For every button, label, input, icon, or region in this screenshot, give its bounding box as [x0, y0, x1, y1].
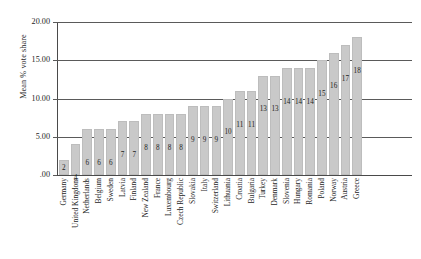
bar-slot: 7 — [117, 22, 129, 175]
bar[interactable] — [129, 121, 139, 175]
x-label-slot: Germany — [58, 178, 70, 258]
bar-value-label: 13 — [257, 106, 269, 113]
x-label-slot: United Kingdom — [70, 178, 82, 258]
bar-value-label: 11 — [246, 122, 258, 129]
x-axis-category-label: Slovakia — [189, 178, 196, 204]
bar-slot: 15 — [316, 22, 328, 175]
bar[interactable] — [258, 76, 268, 175]
bar[interactable] — [294, 68, 304, 175]
x-axis-category-label: Czech Republic — [177, 178, 184, 225]
x-label-slot: Latvia — [117, 178, 129, 258]
bar[interactable] — [305, 68, 315, 175]
bar-slot: 8 — [175, 22, 187, 175]
bar-value-label: 16 — [328, 83, 340, 90]
x-label-slot: Romania — [304, 178, 316, 258]
x-label-slot: Lithuania — [222, 178, 234, 258]
bar-slot: 11 — [234, 22, 246, 175]
bar-slot: 9 — [187, 22, 199, 175]
bar[interactable] — [282, 68, 292, 175]
x-label-slot: Luxembourg — [164, 178, 176, 258]
bar-slot: 6 — [105, 22, 117, 175]
bar[interactable] — [118, 121, 128, 175]
bar-value-label: 14 — [293, 99, 305, 106]
y-axis-tick-label: .00 — [8, 171, 50, 179]
y-axis-tick-label: 15.00 — [8, 56, 50, 64]
bar-value-label: 9 — [199, 137, 211, 144]
bar-value-label: 13 — [269, 106, 281, 113]
x-axis-category-label: Denmark — [271, 178, 278, 206]
x-axis-category-label: Turkey — [260, 178, 267, 199]
x-axis-category-label: Latvia — [119, 178, 126, 197]
x-label-slot: Turkey — [257, 178, 269, 258]
x-label-slot: New Zealand — [140, 178, 152, 258]
x-label-slot: Greece — [351, 178, 363, 258]
bar[interactable] — [106, 129, 116, 175]
x-axis-category-label: Germany — [60, 178, 67, 206]
bar-slot: 8 — [140, 22, 152, 175]
x-label-slot: Belgium — [93, 178, 105, 258]
y-axis-tick-mark — [53, 22, 57, 23]
bar-slot: 8 — [152, 22, 164, 175]
x-axis-category-label: New Zealand — [142, 178, 149, 218]
bar[interactable] — [341, 45, 351, 175]
x-axis-category-label: Norway — [330, 178, 337, 202]
bar[interactable] — [352, 37, 362, 175]
bar-slot: 8 — [164, 22, 176, 175]
y-axis-tick-mark — [53, 137, 57, 138]
x-label-slot: Poland — [316, 178, 328, 258]
x-axis-category-label: United Kingdom — [72, 178, 79, 228]
x-axis-category-label: France — [154, 178, 161, 198]
bar-slot: 6 — [93, 22, 105, 175]
bar-slot: 13 — [269, 22, 281, 175]
x-label-slot: Norway — [328, 178, 340, 258]
bar-slot: 13 — [257, 22, 269, 175]
x-label-slot: Croatia — [234, 178, 246, 258]
bar-slot: 2 — [58, 22, 70, 175]
bar[interactable] — [223, 99, 233, 176]
bar[interactable] — [71, 144, 81, 175]
bar[interactable] — [82, 129, 92, 175]
x-label-slot: Slovakia — [187, 178, 199, 258]
bar-slot: 9 — [199, 22, 211, 175]
x-axis-category-label: Luxembourg — [166, 178, 173, 216]
bar-value-label: 2 — [58, 165, 70, 172]
plot-area: 24666778888999101111131314141415161718 — [57, 22, 362, 175]
y-axis-tick-label: 20.00 — [8, 18, 50, 26]
x-axis-category-label: Austria — [342, 178, 349, 200]
bar[interactable] — [94, 129, 104, 175]
bar-slot: 6 — [81, 22, 93, 175]
bar-value-label: 8 — [175, 145, 187, 152]
x-axis-category-label: Bulgaria — [248, 178, 255, 203]
bar-slot: 9 — [211, 22, 223, 175]
bar-slot: 7 — [128, 22, 140, 175]
bar[interactable] — [329, 53, 339, 175]
x-label-slot: Hungary — [293, 178, 305, 258]
x-label-slot: Denmark — [269, 178, 281, 258]
bar-series: 24666778888999101111131314141415161718 — [58, 22, 362, 175]
bar-value-label: 17 — [340, 76, 352, 83]
x-label-slot: Netherlands — [81, 178, 93, 258]
bar[interactable] — [235, 91, 245, 175]
x-axis-category-label: Poland — [318, 178, 325, 199]
x-axis-category-label: Slovenia — [283, 178, 290, 204]
bar[interactable] — [270, 76, 280, 175]
bar-value-label: 6 — [81, 160, 93, 167]
bar-value-label: 8 — [140, 145, 152, 152]
x-label-slot: Czech Republic — [175, 178, 187, 258]
x-axis-category-label: Greece — [353, 178, 360, 199]
x-label-slot: Switzerland — [211, 178, 223, 258]
bar-value-label: 11 — [234, 122, 246, 129]
bar[interactable] — [247, 91, 257, 175]
bar-value-label: 8 — [164, 145, 176, 152]
x-axis-baseline — [57, 175, 412, 176]
bar-slot: 14 — [281, 22, 293, 175]
bar-value-label: 14 — [304, 99, 316, 106]
bar[interactable] — [317, 60, 327, 175]
x-axis-category-label: Finland — [131, 178, 138, 201]
bar-slot: 10 — [222, 22, 234, 175]
bar-chart: Mean % vote share 20.0015.0010.005.00.00… — [0, 0, 421, 259]
x-label-slot: Sweden — [105, 178, 117, 258]
y-axis-tick-mark — [53, 99, 57, 100]
bar-value-label: 9 — [211, 137, 223, 144]
bar-value-label: 6 — [105, 160, 117, 167]
